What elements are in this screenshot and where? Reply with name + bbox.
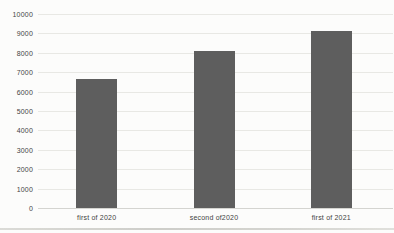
gridline bbox=[38, 14, 393, 15]
y-axis-tick-label: 4000 bbox=[0, 126, 33, 135]
y-axis-tick-label: 1000 bbox=[0, 185, 33, 194]
bar-chart: 0100020003000400050006000700080009000100… bbox=[0, 0, 394, 233]
y-axis-tick-label: 2000 bbox=[0, 165, 33, 174]
scanned-document-page: 0100020003000400050006000700080009000100… bbox=[0, 0, 394, 233]
y-axis-tick-label: 3000 bbox=[0, 146, 33, 155]
bar-first-of-2021 bbox=[311, 31, 352, 209]
y-axis-tick-label: 9000 bbox=[0, 29, 33, 38]
page-rule-line bbox=[0, 228, 394, 230]
x-category-label-second-of2020: second of2020 bbox=[155, 213, 272, 222]
bar-first-of-2020 bbox=[76, 79, 117, 209]
y-axis-tick-label: 8000 bbox=[0, 49, 33, 58]
y-axis-tick-label: 5000 bbox=[0, 107, 33, 116]
y-axis-tick-label: 6000 bbox=[0, 88, 33, 97]
y-axis-tick-label: 7000 bbox=[0, 68, 33, 77]
y-axis-tick-label: 0 bbox=[0, 204, 33, 213]
x-category-label-first-of-2021: first of 2021 bbox=[273, 213, 390, 222]
x-category-label-first-of-2020: first of 2020 bbox=[38, 213, 155, 222]
y-axis-tick-label: 10000 bbox=[0, 10, 33, 19]
bar-second-of2020 bbox=[194, 51, 235, 208]
